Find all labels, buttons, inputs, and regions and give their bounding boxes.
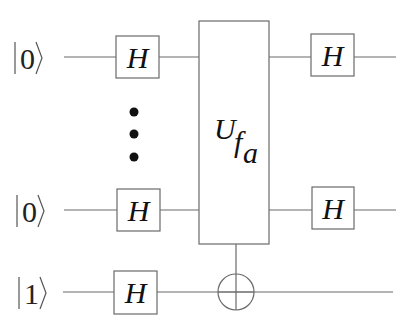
svg-text:H: H [127,194,152,227]
svg-text:H: H [321,39,346,72]
hadamard-gate-qn-left: H [117,189,160,231]
vertical-ellipsis-icon [130,108,139,162]
svg-text:a: a [243,136,258,169]
hadamard-gate-q0-left: H [116,36,159,78]
ket-label-middle: 0 [17,195,44,228]
hadamard-gate-qn-right: H [312,187,354,229]
ket-label-top: 0 [15,42,42,75]
svg-text:H: H [321,192,346,225]
ket-label-ancilla: 1 [19,277,46,310]
hadamard-gate-q0-right: H [311,34,354,76]
quantum-circuit-diagram: 0 0 1 H H H U f [0,0,411,333]
svg-text:1: 1 [24,277,39,310]
svg-text:0: 0 [20,42,35,75]
svg-text:0: 0 [22,195,37,228]
svg-text:H: H [124,276,149,309]
oracle-gate-ufa: U f a [199,21,269,244]
svg-text:H: H [126,41,151,74]
hadamard-gate-ancilla: H [114,271,157,314]
